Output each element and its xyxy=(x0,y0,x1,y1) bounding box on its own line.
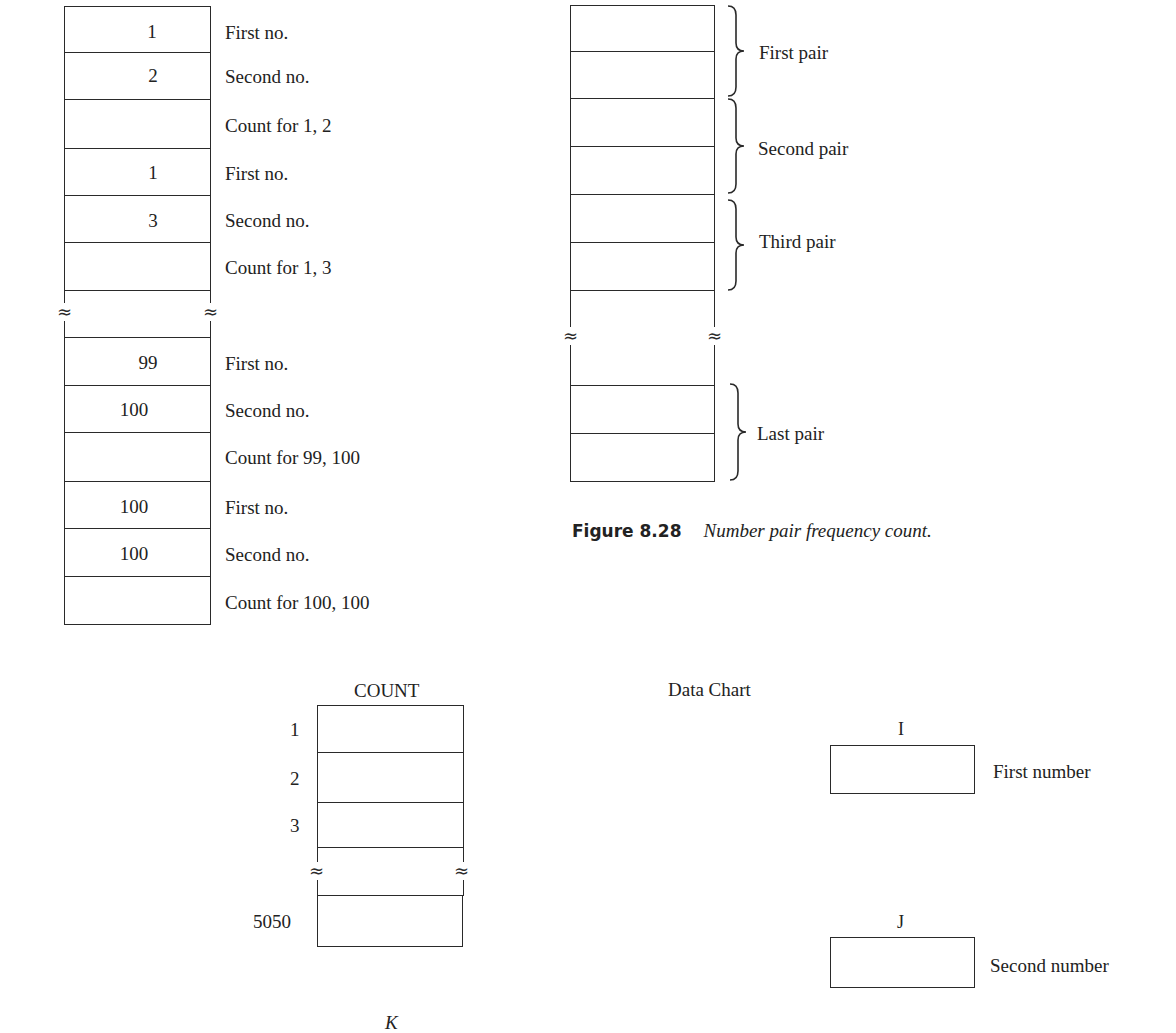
cell-value: 100 xyxy=(64,497,204,516)
cell-value: 99 xyxy=(64,353,232,372)
cell-label: First no. xyxy=(225,498,288,517)
memory-gap-cell xyxy=(570,290,715,386)
variable-box xyxy=(830,937,975,988)
cell-value: 100 xyxy=(64,544,204,563)
cell-label: Count for 99, 100 xyxy=(225,448,360,467)
break-icon: ≈ xyxy=(707,327,722,345)
memory-cell xyxy=(570,242,715,291)
break-icon: ≈ xyxy=(57,303,72,321)
array-cell xyxy=(317,802,464,848)
figure-title: Number pair frequency count. xyxy=(704,520,932,541)
memory-cell xyxy=(570,5,715,52)
array-gap-cell xyxy=(317,847,464,896)
break-icon: ≈ xyxy=(203,303,218,321)
pair-label: Last pair xyxy=(757,424,824,443)
array-cell xyxy=(317,705,464,753)
cell-label: First no. xyxy=(225,354,288,373)
brace-icon xyxy=(726,5,750,97)
brace-icon xyxy=(726,199,750,291)
cell-label: Second no. xyxy=(225,545,309,564)
cell-label: Second no. xyxy=(225,67,309,86)
memory-cell xyxy=(64,432,211,482)
cell-value: 100 xyxy=(64,400,204,419)
array-cell xyxy=(317,895,463,947)
memory-cell xyxy=(570,98,715,147)
memory-cell xyxy=(570,51,715,99)
cell-label: Count for 1, 3 xyxy=(225,258,332,277)
pair-label: Second pair xyxy=(758,139,848,158)
variable-box xyxy=(830,745,975,794)
cell-value: 1 xyxy=(64,163,242,182)
count-array-title: COUNT xyxy=(354,681,419,700)
break-icon: ≈ xyxy=(454,862,469,880)
figure-number: Figure 8.28 xyxy=(572,521,682,541)
data-chart-title: Data Chart xyxy=(668,680,751,699)
memory-cell xyxy=(64,242,211,291)
variable-name: J xyxy=(897,913,904,931)
cell-label: First no. xyxy=(225,164,288,183)
memory-cell xyxy=(570,385,715,434)
cell-label: Second no. xyxy=(225,211,309,230)
variable-name: I xyxy=(898,720,904,738)
memory-gap-cell xyxy=(64,290,211,338)
array-index: 2 xyxy=(290,769,300,788)
memory-cell xyxy=(64,99,211,149)
figure-caption: Figure 8.28 Number pair frequency count. xyxy=(572,520,932,542)
cell-label: Count for 100, 100 xyxy=(225,593,370,612)
brace-icon xyxy=(726,98,750,194)
cell-label: Count for 1, 2 xyxy=(225,116,332,135)
array-index: 5050 xyxy=(253,912,291,931)
array-index: 1 xyxy=(290,720,300,739)
pair-label: Third pair xyxy=(759,232,836,251)
array-index: 3 xyxy=(290,816,300,835)
cell-label: First no. xyxy=(225,23,288,42)
cell-value: 3 xyxy=(64,211,242,230)
cell-value: 2 xyxy=(64,66,242,85)
variable-label: Second number xyxy=(990,956,1109,975)
pair-label: First pair xyxy=(759,43,828,62)
cell-value: 1 xyxy=(64,22,240,41)
memory-cell xyxy=(570,146,715,195)
cell-label: Second no. xyxy=(225,401,309,420)
variable-label: First number xyxy=(993,762,1091,781)
brace-icon xyxy=(728,383,752,481)
break-icon: ≈ xyxy=(563,327,578,345)
index-variable-label: K xyxy=(385,1013,398,1032)
break-icon: ≈ xyxy=(309,862,324,880)
memory-cell xyxy=(64,576,211,625)
memory-cell xyxy=(570,433,715,482)
array-cell xyxy=(317,752,464,803)
memory-cell xyxy=(570,194,715,243)
